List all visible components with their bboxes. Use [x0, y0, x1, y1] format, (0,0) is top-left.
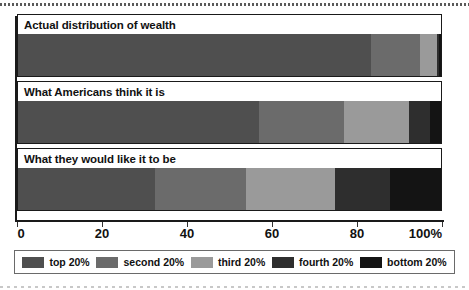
segment-second-20	[371, 34, 420, 76]
segment-second-20	[155, 168, 246, 210]
x-tick-label: 60	[265, 226, 279, 241]
segment-bottom-20	[439, 34, 441, 76]
segment-fourth-20	[335, 168, 390, 210]
legend-item[interactable]: third 20%	[191, 256, 265, 268]
legend-label: third 20%	[218, 256, 265, 268]
bar-caption-actual: Actual distribution of wealth	[17, 14, 442, 34]
x-tick-label: 20	[95, 226, 109, 241]
segment-fourth-20	[409, 101, 430, 143]
bar-caption-label: What Americans think it is	[24, 86, 165, 98]
stacked-bar-perceived	[17, 101, 442, 144]
segment-third-20	[344, 101, 410, 143]
bar-caption-label: Actual distribution of wealth	[24, 19, 176, 31]
wealth-distribution-chart: Actual distribution of wealth What Ameri…	[0, 14, 469, 290]
legend-item[interactable]: second 20%	[96, 256, 184, 268]
legend-item[interactable]: fourth 20%	[272, 256, 353, 268]
legend-label: top 20%	[49, 256, 89, 268]
legend-item[interactable]: top 20%	[22, 256, 89, 268]
segment-third-20	[420, 34, 437, 76]
legend-swatch-icon	[272, 257, 294, 268]
chart-legend: top 20%second 20%third 20%fourth 20%bott…	[14, 250, 455, 274]
bar-caption-label: What they would like it to be	[24, 153, 176, 165]
bar-group-ideal: What they would like it to be	[17, 148, 442, 211]
stacked-bar-actual	[17, 34, 442, 77]
legend-swatch-icon	[360, 257, 382, 268]
bar-group-perceived: What Americans think it is	[17, 81, 442, 144]
y-axis-line	[15, 16, 17, 222]
segment-second-20	[259, 101, 344, 143]
segment-third-20	[246, 168, 335, 210]
x-tick-label: 0	[17, 226, 24, 241]
x-tick-label: 100%	[409, 226, 442, 241]
x-tick-label: 80	[350, 226, 364, 241]
x-tick-mark	[442, 222, 443, 227]
bottom-dotted-rule	[0, 286, 469, 288]
bar-caption-ideal: What they would like it to be	[17, 148, 442, 168]
legend-label: bottom 20%	[387, 256, 447, 268]
segment-top-20	[18, 34, 371, 76]
bar-group-actual: Actual distribution of wealth	[17, 14, 442, 77]
legend-item[interactable]: bottom 20%	[360, 256, 447, 268]
legend-label: second 20%	[123, 256, 184, 268]
legend-swatch-icon	[191, 257, 213, 268]
legend-label: fourth 20%	[299, 256, 353, 268]
segment-bottom-20	[390, 168, 441, 210]
legend-swatch-icon	[96, 257, 118, 268]
top-dotted-rule	[0, 3, 469, 6]
segment-top-20	[18, 168, 155, 210]
legend-swatch-icon	[22, 257, 44, 268]
stacked-bar-ideal	[17, 168, 442, 211]
segment-bottom-20	[430, 101, 441, 143]
bar-caption-perceived: What Americans think it is	[17, 81, 442, 101]
x-tick-label: 40	[180, 226, 194, 241]
x-axis-line	[15, 220, 444, 222]
plot-area: Actual distribution of wealth What Ameri…	[17, 14, 442, 222]
segment-top-20	[18, 101, 259, 143]
